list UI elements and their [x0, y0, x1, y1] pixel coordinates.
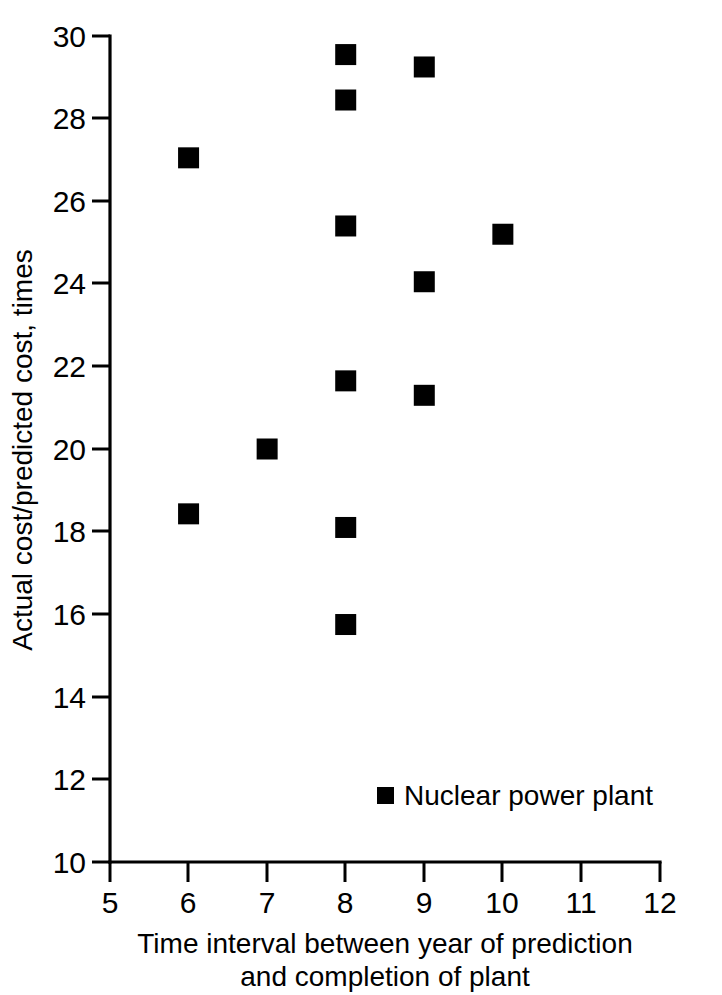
- data-point: [335, 215, 356, 236]
- legend: Nuclear power plant: [377, 780, 653, 811]
- data-point: [414, 56, 435, 77]
- x-axis-title-line2: and completion of plant: [240, 961, 530, 992]
- y-tick-label-22: 22: [53, 350, 86, 383]
- y-axis-ticks: [92, 36, 110, 862]
- x-tick-label-11: 11: [565, 886, 596, 919]
- y-tick-label-10: 10: [53, 846, 86, 879]
- data-point: [178, 503, 199, 524]
- legend-marker-icon: [377, 787, 394, 804]
- data-point: [335, 90, 356, 111]
- x-axis-tick-labels: 5 6 7 8 9 10 11 12: [102, 886, 677, 919]
- y-tick-label-26: 26: [53, 185, 86, 218]
- x-tick-label-10: 10: [485, 886, 518, 919]
- y-axis-title-text: Actual cost/predicted cost, times: [7, 249, 38, 651]
- data-point: [257, 439, 278, 460]
- legend-label: Nuclear power plant: [404, 780, 653, 811]
- x-tick-label-12: 12: [643, 886, 676, 919]
- data-point: [492, 224, 513, 245]
- x-axis-title-line1: Time interval between year of prediction: [137, 928, 632, 959]
- data-point: [335, 517, 356, 538]
- data-point: [335, 44, 356, 65]
- y-axis-tick-labels: 30 28 26 24 22 20 18 16 14 12 10: [53, 20, 86, 879]
- plot-canvas: 30 28 26 24 22 20 18 16 14 12 10 5 6: [0, 0, 722, 995]
- x-tick-label-8: 8: [337, 886, 354, 919]
- data-point: [414, 385, 435, 406]
- y-tick-label-16: 16: [53, 598, 86, 631]
- x-tick-label-6: 6: [180, 886, 197, 919]
- x-tick-label-5: 5: [102, 886, 119, 919]
- y-tick-label-24: 24: [53, 267, 86, 300]
- y-tick-label-30: 30: [53, 20, 86, 53]
- y-tick-label-28: 28: [53, 102, 86, 135]
- x-axis-ticks: [110, 862, 660, 882]
- scatter-plot-figure: 30 28 26 24 22 20 18 16 14 12 10 5 6: [0, 0, 722, 995]
- y-tick-label-12: 12: [53, 763, 86, 796]
- x-axis-title: Time interval between year of prediction…: [137, 928, 632, 992]
- y-tick-label-18: 18: [53, 515, 86, 548]
- data-point: [414, 271, 435, 292]
- x-tick-label-7: 7: [259, 886, 276, 919]
- data-point: [178, 147, 199, 168]
- x-tick-label-9: 9: [416, 886, 433, 919]
- data-point: [335, 614, 356, 635]
- data-point-group: [178, 44, 513, 635]
- data-point: [335, 370, 356, 391]
- y-tick-label-20: 20: [53, 433, 86, 466]
- y-axis-title: Actual cost/predicted cost, times: [7, 249, 38, 651]
- y-tick-label-14: 14: [53, 681, 86, 714]
